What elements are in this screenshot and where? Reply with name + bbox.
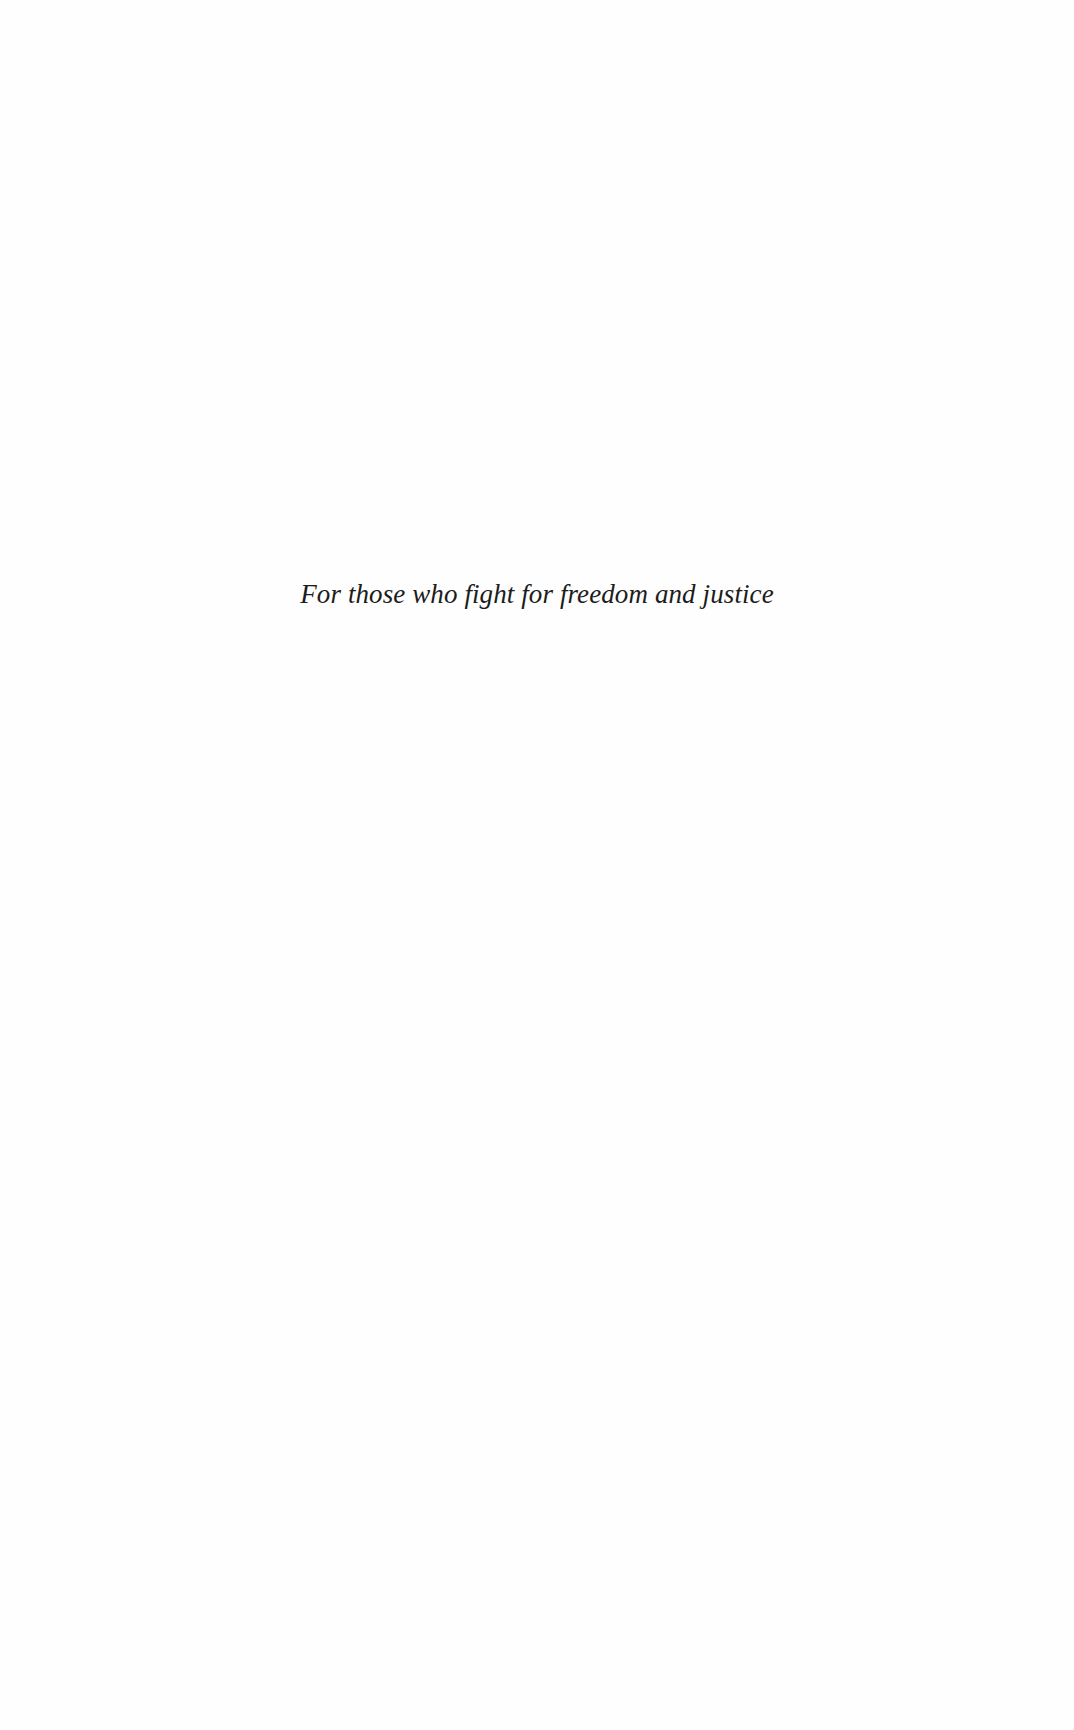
dedication-page: For those who fight for freedom and just… [0, 0, 1074, 1730]
dedication-text: For those who fight for freedom and just… [0, 578, 1074, 610]
